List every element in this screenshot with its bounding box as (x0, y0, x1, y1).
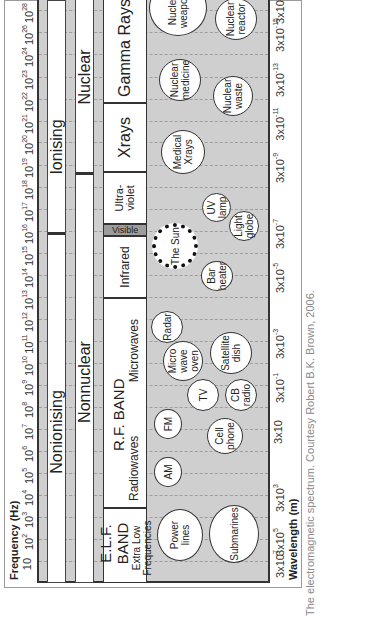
source-radar: Radar (151, 311, 183, 343)
source-satellite-dish: Satellite dish (210, 332, 252, 374)
microwaves-label: Microwaves (127, 319, 141, 382)
frequency-tick: 1018 (21, 180, 35, 200)
gridline (39, 187, 268, 188)
frequency-tick: 1024 (21, 47, 35, 67)
frequency-tick: 104 (21, 490, 35, 506)
source-fm: FM (154, 409, 182, 439)
source-light-globe: Light globe (229, 211, 259, 241)
wavelength-tick: 3x10-17 (272, 0, 286, 24)
radiowaves-label: Radiowaves (127, 436, 141, 501)
frequency-tick: 1014 (21, 268, 35, 288)
nuclear-label: Nuclear (76, 0, 93, 172)
xrays-band: Xrays (103, 103, 147, 172)
wavelength-axis-title: Wavelength (m) (287, 499, 299, 581)
frequency-tick: 1020 (21, 135, 35, 155)
frequency-tick: 1028 (21, 3, 35, 23)
ionising-boundary (48, 232, 65, 235)
source-microwave-oven: Micro wave oven (163, 341, 203, 381)
frequency-tick: 1026 (21, 25, 35, 45)
ionising-row: Nonionising Ionising (47, 0, 66, 583)
nuclear-boundary (76, 172, 93, 175)
source-tv: TV (187, 379, 219, 411)
rf-band-title: R.F. BAND (110, 378, 127, 451)
frequency-axis-title: Frequency (Hz) (8, 501, 20, 580)
source-uv-lamp: UV lamp (202, 193, 231, 222)
frequency-tick: 105 (21, 468, 35, 484)
wavelength-tick: 3x10-13 (272, 63, 286, 97)
nuclear-row: Nonnuclear Nuclear (75, 0, 94, 583)
elf-band: E.L.F. BAND Extra Low Frequencies (103, 508, 147, 583)
frequency-tick: 1021 (21, 114, 35, 134)
gridline (39, 165, 268, 166)
gridline (39, 209, 268, 210)
plot-area: Nonionising Ionising Nonnuclear Nuclear … (37, 0, 270, 583)
gridline (39, 142, 268, 143)
frequency-tick: 1010 (21, 356, 35, 376)
wavelength-tick: 3x105 (272, 528, 286, 556)
frequency-tick: 1019 (21, 158, 35, 178)
frequency-tick: 107 (21, 424, 35, 440)
frequency-tick: 1015 (21, 246, 35, 266)
wavelength-tick: 3x10-3 (272, 329, 286, 359)
frequency-tick: 102 (21, 534, 35, 550)
wavelength-tick: 3x10-5 (272, 263, 286, 293)
source-am: AM (154, 457, 182, 487)
gridline (39, 121, 268, 122)
source-bar-heater: Bar heater (201, 261, 233, 291)
source-cb-radio: CB radio (225, 379, 257, 411)
elf-band-title: E.L.F. BAND (97, 509, 131, 578)
source-nuclear-medicine: Nuclear medicine (159, 59, 201, 101)
gridline (39, 495, 268, 496)
infrared-band: Infrared (103, 236, 147, 298)
frequency-tick: 1023 (21, 70, 35, 90)
gridline (39, 54, 268, 55)
source-submarines: Submarines (209, 505, 259, 563)
wavelength-tick: 3x10-11 (272, 107, 286, 140)
source-the-sun: The Sun (152, 223, 198, 269)
ionising-label: Ionising (48, 47, 65, 247)
rf-band: R.F. BAND Radiowaves Microwaves (103, 298, 147, 508)
visible-band: Visible (103, 224, 147, 236)
gridline (39, 275, 268, 276)
em-spectrum-figure: Frequency (Hz) 1010210310410510610710810… (0, 0, 304, 590)
source-nuclear-weapons: Nuclear weapons (149, 0, 207, 36)
frequency-tick: 1012 (21, 312, 35, 332)
wavelength-tick: 3x10 (272, 420, 284, 444)
source-power-lines: Power lines (157, 509, 203, 561)
source-medical-xrays: Medical Xrays (161, 130, 205, 174)
source-nuclear-waste: Nuclear waste (213, 76, 253, 116)
frequency-tick: 1013 (21, 290, 35, 310)
source-cell-phone: Cell phone (207, 418, 243, 454)
gridline (39, 297, 268, 298)
figure-caption: The electromagnetic spectrum. Courtesy R… (304, 286, 316, 616)
wavelength-tick: 3x10-7 (272, 219, 286, 249)
gamma-rays-band: Gamma Rays (103, 0, 147, 103)
frequency-tick: 1017 (21, 202, 35, 222)
nonnuclear-label: Nonnuclear (76, 182, 93, 582)
wavelength-tick: 3x103 (272, 484, 286, 512)
frequency-tick: 1016 (21, 224, 35, 244)
frequency-tick: 10 (21, 558, 33, 570)
frequency-tick: 1011 (21, 334, 35, 354)
elf-band-subtitle: Extra Low Frequencies (131, 518, 153, 578)
frequency-tick: 109 (21, 380, 35, 396)
frequency-tick: 106 (21, 446, 35, 462)
source-nuclear-reactor: Nuclear reactor (215, 0, 257, 40)
frequency-tick: 103 (21, 512, 35, 528)
wavelength-tick: 3x10-1 (272, 373, 286, 403)
frequency-tick: 1022 (21, 92, 35, 112)
wavelength-tick: 3x10-9 (272, 153, 286, 183)
ultraviolet-band: Ultra-violet (103, 172, 147, 224)
frequency-tick: 108 (21, 402, 35, 418)
nonionising-label: Nonionising (48, 282, 65, 582)
